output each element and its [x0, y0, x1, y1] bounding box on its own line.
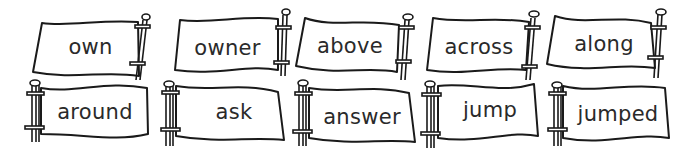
flag-word-label: jumped	[569, 104, 667, 125]
flag-word-label: ask	[188, 102, 280, 123]
word-flag-answer: answer	[293, 80, 423, 155]
flag-word-label: around	[47, 102, 143, 123]
word-flag-owner: owner	[172, 6, 297, 78]
word-flags-sheet: own owner	[0, 0, 693, 155]
flag-word-label: own	[48, 37, 133, 58]
flag-word-label: answer	[311, 107, 413, 128]
flag-word-label: across	[433, 37, 525, 58]
word-flag-around: around	[25, 78, 155, 155]
word-flag-own: own	[30, 10, 155, 80]
word-flag-ask: ask	[160, 80, 290, 155]
flag-word-label: above	[305, 36, 395, 57]
word-flag-across: across	[425, 8, 550, 80]
flag-word-label: jump	[446, 100, 534, 121]
word-flag-jump: jump	[420, 80, 550, 155]
word-flag-along: along	[545, 6, 670, 78]
flag-word-label: owner	[180, 38, 275, 59]
word-flag-above: above	[293, 8, 418, 80]
flag-word-label: along	[559, 34, 649, 55]
word-flag-jumped: jumped	[547, 82, 677, 155]
